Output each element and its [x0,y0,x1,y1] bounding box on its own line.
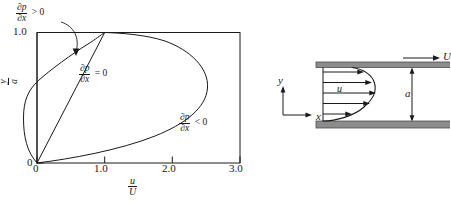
curve-adverse-pressure-gradient [24,33,105,164]
axis-x-label: x [316,110,321,122]
annotation-favorable-numerator: ∂p [179,113,190,123]
x-axis-title-denominator: U [128,186,137,197]
y-tick-label-0: 0 [27,156,33,168]
y-axis-title-numerator: y [0,78,8,85]
gap-label: a [405,87,411,99]
annotation-leader-arrowhead [73,48,80,56]
annotation-adverse-denominator: ∂x [16,13,27,24]
annotation-zero-relation: = 0 [95,68,107,78]
coordinate-axes-indicator [281,86,312,117]
x-tick-label-3: 3.0 [229,162,243,174]
annotation-favorable-denominator: ∂x [179,123,190,134]
axis-x-arrowhead [306,113,313,118]
profile-label: u [337,83,342,94]
axis-y-arrowhead [281,86,286,93]
channel-schematic [260,0,450,202]
velocity-profile-plot [0,0,260,202]
axis-y-label: y [278,74,283,86]
x-tick-label-1: 1.0 [94,162,108,174]
gap-arrowhead-bottom [410,115,415,121]
annotation-adverse-relation: > 0 [32,7,44,17]
annotation-favorable-relation: < 0 [195,117,207,127]
annotation-adverse-pressure-gradient: ∂p ∂x > 0 [16,3,44,23]
annotation-zero-numerator: ∂p [79,64,90,74]
velocity-profile-arrows [323,72,372,114]
curve-zero-pressure-gradient [37,33,105,164]
y-axis-title: y a [0,78,19,85]
annotation-leader-line [61,22,77,52]
y-axis-ticks [37,33,44,164]
x-axis-title-numerator: u [128,176,137,186]
x-tick-label-2: 2.0 [162,162,176,174]
x-tick-label-0: 0 [33,162,39,174]
upper-plate [316,62,450,68]
plot-frame [37,33,240,164]
plate-velocity-label: U [443,50,451,62]
annotation-adverse-numerator: ∂p [16,3,27,13]
gap-arrowhead-top [410,68,415,74]
annotation-favorable-pressure-gradient: ∂p ∂x < 0 [179,113,207,133]
plate-velocity-arrow [403,55,440,60]
x-axis-ticks [37,157,240,164]
x-axis-title: u U [128,176,137,197]
y-axis-title-denominator: a [8,78,19,85]
annotation-zero-denominator: ∂x [79,74,90,85]
y-tick-label-1: 1.0 [13,25,27,37]
plate-velocity-arrowhead [433,55,440,60]
curve-favorable-pressure-gradient [37,33,208,164]
annotation-zero-pressure-gradient: ∂p ∂x = 0 [79,64,107,84]
lower-plate [316,121,450,128]
